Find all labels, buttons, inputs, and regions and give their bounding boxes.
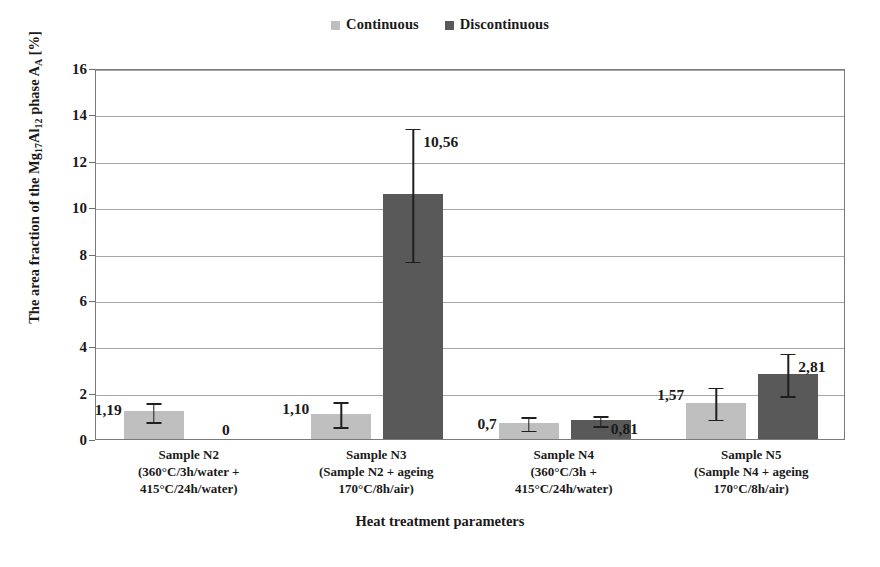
error-bar-stem [788, 354, 789, 398]
bar-value-label: 0 [222, 421, 230, 439]
gridline [96, 256, 844, 257]
x-axis-category-label-line: (360°C/3h + [515, 463, 613, 480]
y-axis-tick-label: 16 [45, 61, 87, 78]
x-axis-category-label-line: (360°C/3h/water + [138, 463, 240, 480]
bar-value-label: 0,7 [477, 415, 496, 433]
error-bar-cap-top [593, 416, 608, 418]
y-axis-tick-label: 8 [45, 246, 87, 263]
y-axis-tick-labels: 0246810121416 [45, 69, 87, 440]
error-bar-cap-top [146, 403, 161, 405]
error-bar-cap-top [521, 417, 536, 419]
error-bar-cap-top [781, 354, 796, 356]
error-bar-cap-bottom [146, 422, 161, 424]
error-bar-cap-bottom [334, 427, 349, 429]
x-axis-category-label-line: Sample N2 [138, 446, 240, 463]
y-axis-tick-label: 12 [45, 153, 87, 170]
chart-legend: Continuous Discontinuous [0, 16, 880, 33]
x-axis-category-label: Sample N4(360°C/3h +415°C/24h/water) [515, 446, 613, 497]
plot-area: 1,1901,1010,560,70,811,572,81 [95, 69, 845, 440]
y-axis-tick-label: 10 [45, 200, 87, 217]
y-axis-tick-label: 6 [45, 292, 87, 309]
legend-item-discontinuous[interactable]: Discontinuous [445, 16, 549, 33]
y-axis-tick-label: 0 [45, 432, 87, 449]
error-bar-cap-bottom [521, 431, 536, 433]
error-bar-cap-bottom [781, 396, 796, 398]
y-axis-tick-label: 14 [45, 107, 87, 124]
x-axis-category-label-line: Sample N3 [319, 446, 434, 463]
error-bar-stem [341, 402, 342, 429]
y-axis-tick-label: 4 [45, 339, 87, 356]
legend-item-continuous[interactable]: Continuous [331, 16, 419, 33]
error-bar-cap-top [709, 388, 724, 390]
x-axis-category-label: Sample N5(Sample N4 + ageing170°C/8h/air… [694, 446, 809, 497]
x-axis-category-label: Sample N3(Sample N2 + ageing170°C/8h/air… [319, 446, 434, 497]
legend-swatch-continuous [331, 21, 340, 30]
y-axis-tick-label: 2 [45, 385, 87, 402]
bar-value-label: 1,19 [95, 401, 122, 419]
bar-chart: Continuous Discontinuous The area fracti… [0, 0, 880, 567]
x-axis-category-label-line: 415°C/24h/water) [138, 480, 240, 497]
x-axis-title: Heat treatment parameters [0, 513, 880, 530]
x-axis-category-label-line: (Sample N2 + ageing [319, 463, 434, 480]
x-axis-category-label-line: 415°C/24h/water) [515, 480, 613, 497]
bar-value-label: 1,57 [657, 386, 684, 404]
bar-value-label: 10,56 [423, 133, 458, 151]
gridline [96, 163, 844, 164]
x-axis-category-label-line: 170°C/8h/air) [319, 480, 434, 497]
legend-label-discontinuous: Discontinuous [460, 16, 549, 33]
x-axis-category-label-line: 170°C/8h/air) [694, 480, 809, 497]
error-bar-cap-bottom [406, 262, 421, 264]
error-bar-cap-bottom [709, 420, 724, 422]
error-bar-stem [413, 129, 414, 263]
x-axis-category-label-line: (Sample N4 + ageing [694, 463, 809, 480]
error-bar-cap-bottom [593, 426, 608, 428]
bar-value-label: 2,81 [798, 358, 825, 376]
gridline [96, 302, 844, 303]
legend-label-continuous: Continuous [346, 16, 419, 33]
x-axis-category-label: Sample N2(360°C/3h/water +415°C/24h/wate… [138, 446, 240, 497]
gridline [96, 209, 844, 210]
legend-swatch-discontinuous [445, 21, 454, 30]
error-bar-stem [153, 403, 154, 424]
error-bar-stem [716, 388, 717, 421]
gridline [96, 395, 844, 396]
x-axis-category-labels: Sample N2(360°C/3h/water +415°C/24h/wate… [95, 446, 845, 516]
error-bar-cap-top [334, 402, 349, 404]
gridline [96, 348, 844, 349]
error-bar-cap-top [406, 129, 421, 131]
x-axis-category-label-line: Sample N5 [694, 446, 809, 463]
x-axis-category-label-line: Sample N4 [515, 446, 613, 463]
y-axis-title: The area fraction of the Mg17Al12 phase … [26, 0, 45, 357]
bar-value-label: 1,10 [282, 400, 309, 418]
gridline [96, 116, 844, 117]
y-axis-tick-mark [89, 440, 95, 441]
gridline [96, 70, 844, 71]
bar-value-label: 0,81 [611, 420, 638, 438]
y-axis-title-text: The area fraction of the Mg17Al12 phase … [26, 31, 42, 324]
